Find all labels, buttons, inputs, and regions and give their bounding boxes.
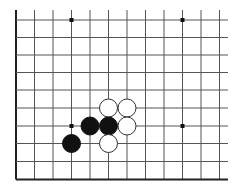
board-grid (16, 10, 228, 180)
star-point-icon (181, 18, 185, 22)
star-point-icon (70, 18, 74, 22)
white-stone (118, 117, 136, 135)
white-stone (100, 99, 118, 117)
black-stone (63, 135, 81, 153)
black-stone (100, 117, 118, 135)
star-point-icon (70, 124, 74, 128)
go-board (0, 0, 242, 193)
black-stone (81, 117, 99, 135)
white-stone (100, 135, 118, 153)
star-point-icon (181, 124, 185, 128)
white-stone (118, 99, 136, 117)
